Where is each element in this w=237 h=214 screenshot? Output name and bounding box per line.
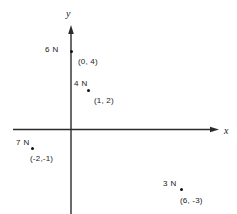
- force-diagram-figure: y x 6 N (0, 4) 4 N (1, 2) 7 N (-2,-1) 3 …: [0, 0, 237, 214]
- x-axis-arrowhead: [210, 127, 219, 133]
- force-label-point-0-4: 6 N: [45, 46, 59, 54]
- axes-group: [0, 0, 237, 214]
- data-point-0-4: [70, 50, 73, 53]
- data-point-6-neg3: [180, 188, 183, 191]
- coord-label-point-6-neg3: (6, -3): [180, 197, 203, 205]
- coord-label-point-0-4: (0, 4): [78, 58, 98, 66]
- coord-label-point-neg2-neg1: (-2,-1): [30, 155, 53, 163]
- data-point-1-2: [87, 89, 90, 92]
- coord-label-point-1-2: (1, 2): [94, 97, 114, 105]
- x-axis-label: x: [224, 126, 228, 136]
- force-label-point-1-2: 4 N: [74, 80, 88, 88]
- force-label-point-6-neg3: 3 N: [163, 180, 177, 188]
- y-axis-arrowhead: [68, 25, 74, 34]
- y-axis-label: y: [66, 9, 70, 19]
- force-label-point-neg2-neg1: 7 N: [16, 139, 30, 147]
- data-point-neg2-neg1: [31, 147, 34, 150]
